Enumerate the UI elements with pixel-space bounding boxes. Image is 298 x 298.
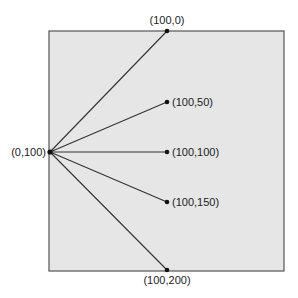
target-label-100-200: (100,200) [143,274,190,286]
origin-point [47,149,52,154]
target-label-100-150: (100,150) [172,196,219,208]
target-point-4 [165,268,170,273]
target-point-2 [165,150,170,155]
target-point-1 [165,100,170,105]
target-label-100-0: (100,0) [150,14,185,26]
origin-label: (0,100) [11,146,46,158]
target-label-100-100: (100,100) [172,146,219,158]
coordinate-diagram: (0,100) (100,0) (100,50) (100,100) (100,… [0,0,298,298]
target-point-3 [165,200,170,205]
target-point-0 [165,29,170,34]
target-label-100-50: (100,50) [172,96,213,108]
